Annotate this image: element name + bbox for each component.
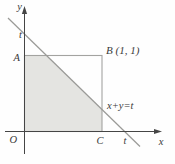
vertex-c-label: C — [96, 135, 104, 146]
vertex-a-label: A — [13, 52, 21, 63]
x-axis-label: x — [158, 136, 164, 147]
figure-canvas: y t A B (1, 1) x+y=t O C t x — [0, 0, 175, 164]
origin-label: O — [9, 134, 17, 145]
y-axis-label: y — [16, 1, 22, 12]
t-intercept-y-label: t — [19, 29, 23, 40]
y-axis-arrowhead — [22, 6, 27, 14]
shaded-region — [25, 56, 103, 132]
line-equation-label: x+y=t — [106, 100, 134, 111]
math-figure: y t A B (1, 1) x+y=t O C t x — [0, 0, 175, 164]
vertex-b-label: B (1, 1) — [106, 44, 140, 57]
t-intercept-x-label: t — [124, 135, 128, 146]
x-axis-arrowhead — [154, 129, 162, 134]
